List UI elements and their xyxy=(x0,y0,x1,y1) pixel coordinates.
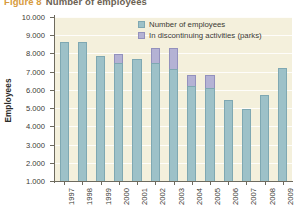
y-axis-line xyxy=(54,15,55,183)
bar-discontinuing-activities xyxy=(114,54,123,63)
y-tick-mark xyxy=(50,35,54,36)
legend-label-main: Number of employees xyxy=(149,19,225,30)
bar-group xyxy=(224,17,233,181)
y-tick-label: 1.000 xyxy=(26,177,45,186)
bar-number-of-employees xyxy=(96,56,105,181)
bar-discontinuing-activities xyxy=(187,75,196,86)
parks-series-swatch-icon xyxy=(138,32,145,39)
bar-group xyxy=(205,17,214,181)
y-tick-mark xyxy=(50,72,54,73)
y-tick-mark xyxy=(50,17,54,18)
legend-item-number-of-employees: Number of employees xyxy=(138,19,262,30)
bar-group xyxy=(96,17,105,181)
x-tick-mark xyxy=(210,181,211,185)
y-tick-mark xyxy=(50,53,54,54)
x-tick-mark xyxy=(101,181,102,185)
bar-number-of-employees xyxy=(260,95,269,181)
x-tick-label: 1999 xyxy=(104,188,113,205)
bar-group xyxy=(78,17,87,181)
chart-figure: Figure 8Number of employees Employees 10… xyxy=(0,0,298,219)
x-tick-label: 2001 xyxy=(140,188,149,205)
x-tick-label: 2004 xyxy=(195,188,204,205)
y-tick-mark xyxy=(50,145,54,146)
bar-discontinuing-activities xyxy=(151,48,160,64)
y-tick-label: 10.000 xyxy=(22,13,45,22)
x-tick-mark xyxy=(137,181,138,185)
chart-legend: Number of employees In discontinuing act… xyxy=(138,19,262,41)
x-tick-mark xyxy=(265,181,266,185)
bar-group xyxy=(169,17,178,181)
bar-group xyxy=(114,17,123,181)
x-tick-mark xyxy=(155,181,156,185)
x-tick-label: 1998 xyxy=(85,188,94,205)
bar-group xyxy=(151,17,160,181)
bar-group xyxy=(187,17,196,181)
x-tick-mark xyxy=(174,181,175,185)
bar-number-of-employees xyxy=(60,42,69,181)
bar-group xyxy=(132,17,141,181)
bar-number-of-employees xyxy=(278,68,287,181)
y-tick-label: 5.000 xyxy=(26,104,45,113)
y-tick-mark xyxy=(50,181,54,182)
y-tick-mark xyxy=(50,90,54,91)
y-tick-mark xyxy=(50,126,54,127)
bars-layer xyxy=(55,17,292,181)
legend-label-parks: In discontinuing activities (parks) xyxy=(149,30,262,41)
y-tick-label: 6.000 xyxy=(26,85,45,94)
y-tick-label: 3.000 xyxy=(26,140,45,149)
bar-group xyxy=(242,17,251,181)
y-tick-label: 8.000 xyxy=(26,49,45,58)
y-tick-label: 7.000 xyxy=(26,67,45,76)
bar-number-of-employees xyxy=(187,86,196,181)
x-tick-mark xyxy=(64,181,65,185)
bar-number-of-employees xyxy=(78,42,87,181)
bar-number-of-employees xyxy=(132,59,141,181)
bar-number-of-employees xyxy=(242,109,251,181)
bar-number-of-employees xyxy=(169,69,178,181)
bar-number-of-employees xyxy=(114,63,123,181)
bar-discontinuing-activities xyxy=(205,75,214,88)
bar-number-of-employees xyxy=(151,63,160,181)
bar-number-of-employees xyxy=(205,88,214,181)
main-series-swatch-icon xyxy=(138,21,145,28)
x-tick-label: 2003 xyxy=(177,188,186,205)
x-tick-label: 2008 xyxy=(268,188,277,205)
bar-number-of-employees xyxy=(224,100,233,181)
bar-discontinuing-activities xyxy=(169,48,178,70)
plot-area xyxy=(55,17,292,181)
x-tick-mark xyxy=(246,181,247,185)
x-tick-mark xyxy=(228,181,229,185)
x-tick-label: 2006 xyxy=(231,188,240,205)
legend-item-discontinuing-activities: In discontinuing activities (parks) xyxy=(138,30,262,41)
y-tick-label: 2.000 xyxy=(26,158,45,167)
x-tick-label: 2005 xyxy=(213,188,222,205)
x-tick-mark xyxy=(283,181,284,185)
x-tick-mark xyxy=(119,181,120,185)
y-tick-mark xyxy=(50,163,54,164)
bar-group xyxy=(60,17,69,181)
x-tick-label: 2009 xyxy=(286,188,295,205)
x-tick-label: 2007 xyxy=(249,188,258,205)
bar-group xyxy=(278,17,287,181)
x-tick-label: 1997 xyxy=(67,188,76,205)
y-axis-ticks: 10.0009.0008.0007.0006.0005.0004.0003.00… xyxy=(0,0,52,219)
x-tick-label: 2002 xyxy=(158,188,167,205)
bar-group xyxy=(260,17,269,181)
y-tick-label: 4.000 xyxy=(26,122,45,131)
x-tick-mark xyxy=(82,181,83,185)
figure-title-text: Number of employees xyxy=(46,0,147,7)
x-tick-mark xyxy=(192,181,193,185)
y-tick-mark xyxy=(50,108,54,109)
x-tick-label: 2000 xyxy=(122,188,131,205)
y-tick-label: 9.000 xyxy=(26,31,45,40)
